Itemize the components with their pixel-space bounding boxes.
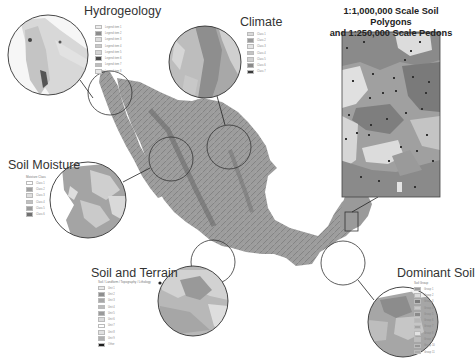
dominant-soil-title: Dominant Soil: [397, 266, 475, 280]
legend-label: Legend item 8: [105, 70, 121, 73]
legend-swatch: [26, 181, 33, 186]
legend-swatch: [95, 44, 102, 49]
hydrogeology-title: Hydrogeology: [84, 4, 161, 18]
legend-label: Unit 5: [108, 312, 115, 315]
legend-item: Legend item 8: [95, 68, 121, 74]
legend-label: Class 2: [257, 39, 266, 42]
legend-label: Group 7: [424, 325, 433, 328]
legend-label: Class 3: [36, 194, 45, 197]
legend-label: Class 6: [257, 64, 266, 67]
dominant-soil-legend: Soil GroupGroup 1Group 2Group 3Group 4Gr…: [414, 281, 435, 355]
legend-item: Class 6: [26, 211, 46, 217]
climate-legend: Class 1Class 2Class 3Class 4Class 5Class…: [247, 31, 266, 75]
legend-swatch: [98, 298, 105, 303]
legend-swatch: [26, 193, 33, 198]
legend-swatch: [98, 286, 105, 291]
legend-swatch: [247, 63, 254, 68]
legend-swatch: [414, 287, 421, 292]
legend-swatch: [95, 56, 102, 61]
legend-item: Other: [98, 342, 151, 348]
legend-label: Class 5: [257, 58, 266, 61]
soil-moisture-title: Soil Moisture: [8, 158, 80, 172]
legend-label: Unit 9: [108, 337, 115, 340]
legend-swatch: [414, 299, 421, 304]
legend-swatch: [95, 69, 102, 74]
legend-swatch: [26, 206, 33, 211]
legend-swatch: [26, 187, 33, 192]
legend-label: Legend item 7: [105, 63, 121, 66]
legend-label: Legend item 5: [105, 51, 121, 54]
legend-swatch: [247, 44, 254, 49]
legend-label: Class 1: [36, 182, 45, 185]
inset-title-line2: and 1:250,000 Scale Pedons: [326, 28, 456, 39]
legend-swatch: [414, 331, 421, 336]
legend-swatch: [98, 324, 105, 329]
legend-label: Class 2: [36, 188, 45, 191]
legend-swatch: [247, 70, 254, 75]
legend-swatch: [26, 200, 33, 205]
legend-swatch: [414, 293, 421, 298]
legend-label: Unit 1: [108, 287, 115, 290]
legend-label: Group 5: [424, 313, 433, 316]
legend-label: Other: [108, 343, 115, 346]
legend-swatch: [98, 330, 105, 335]
inset-title-line1: 1:1,000,000 Scale Soil Polygons: [326, 6, 456, 28]
legend-label: Legend item 1: [105, 26, 121, 29]
legend-swatch: [247, 57, 254, 62]
legend-item: Group 11: [414, 349, 435, 355]
legend-swatch: [247, 38, 254, 43]
legend-swatch: [414, 350, 421, 355]
legend-swatch: [414, 325, 421, 330]
legend-label: Group 9: [424, 338, 433, 341]
legend-label: Legend item 4: [105, 45, 121, 48]
climate-title: Climate: [240, 15, 282, 29]
legend-label: Class 4: [257, 52, 266, 55]
legend-item: Class 7: [247, 69, 266, 75]
legend-label: Class 7: [257, 70, 266, 73]
legend-swatch: [414, 318, 421, 323]
legend-swatch: [98, 311, 105, 316]
legend-swatch: [98, 305, 105, 310]
legend-label: Group 1: [424, 288, 433, 291]
legend-swatch: [414, 306, 421, 311]
legend-swatch: [26, 212, 33, 217]
legend-label: Group 8: [424, 332, 433, 335]
legend-swatch: [95, 31, 102, 36]
legend-label: Class 6: [36, 213, 45, 216]
legend-swatch: [95, 25, 102, 30]
legend-label: Class 3: [257, 45, 266, 48]
legend-label: Class 1: [257, 33, 266, 36]
legend-swatch: [414, 337, 421, 342]
legend-swatch: [414, 344, 421, 349]
legend-label: Group 2: [424, 294, 433, 297]
soil-and-terrain-legend: Soil / Landform / Topography / Lithology…: [98, 280, 151, 348]
legend-swatch: [98, 317, 105, 322]
legend-label: Unit 4: [108, 306, 115, 309]
soil-polygons-inset-map: [340, 32, 440, 197]
legend-label: Group 4: [424, 307, 433, 310]
legend-label: Legend item 2: [105, 32, 121, 35]
legend-label: Unit 2: [108, 293, 115, 296]
legend-swatch: [95, 50, 102, 55]
legend-swatch: [95, 37, 102, 42]
soil-moisture-legend: Moisture ClassClass 1Class 2Class 3Class…: [26, 175, 46, 218]
legend-label: Unit 8: [108, 331, 115, 334]
legend-label: Legend item 6: [105, 57, 121, 60]
legend-label: Unit 7: [108, 324, 115, 327]
legend-swatch: [247, 51, 254, 56]
legend-label: Unit 3: [108, 299, 115, 302]
legend-label: Class 4: [36, 201, 45, 204]
legend-swatch: [247, 32, 254, 37]
legend-label: Group 3: [424, 300, 433, 303]
legend-swatch: [95, 63, 102, 68]
legend-swatch: [98, 343, 105, 348]
inset-title: 1:1,000,000 Scale Soil Polygons and 1:25…: [326, 6, 456, 39]
legend-label: Legend item 3: [105, 38, 121, 41]
legend-label: Group 11: [424, 351, 435, 354]
legend-label: Class 5: [36, 207, 45, 210]
legend-swatch: [414, 312, 421, 317]
legend-label: Unit 6: [108, 318, 115, 321]
legend-swatch: [98, 292, 105, 297]
legend-label: Group 6: [424, 319, 433, 322]
hydrogeology-legend: Legend item 1Legend item 2Legend item 3L…: [95, 24, 121, 74]
